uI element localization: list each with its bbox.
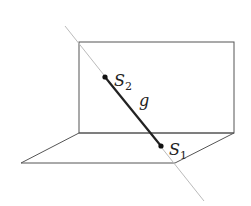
diagram-canvas: S2 g S1 [0,0,251,206]
point-s2 [102,74,107,79]
label-g: g [139,91,149,110]
label-s2: S2 [114,71,132,93]
point-s1 [158,143,163,148]
horizontal-plane [21,133,234,163]
label-s1: S1 [169,140,187,162]
vertical-plane [79,42,234,133]
